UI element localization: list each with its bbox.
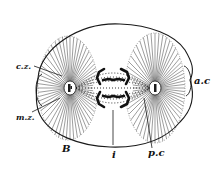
label-ac: a.c [194,76,210,86]
cell-division-diagram: c.z. m.z. B i p.c a.c [0,0,219,180]
diagram-drawing [0,0,219,180]
label-i: i [112,150,116,160]
left-centrosome [64,81,76,95]
label-pc: p.c [148,148,165,158]
label-mz: m.z. [16,113,35,121]
right-centrosome [149,81,161,95]
label-cz: c.z. [16,62,31,70]
label-B: B [62,144,70,154]
